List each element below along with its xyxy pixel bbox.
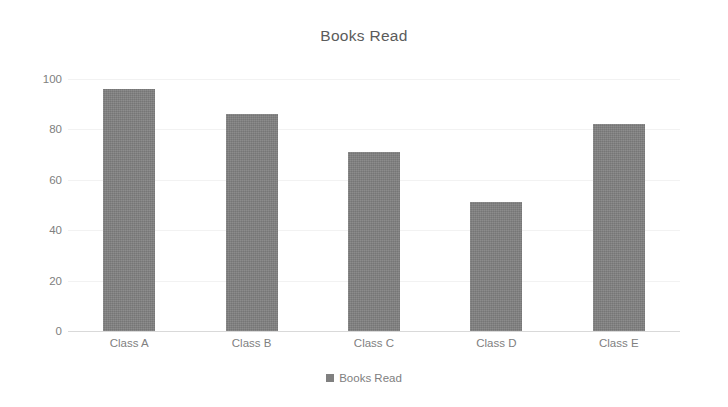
y-axis-tick-label: 80 [22, 123, 62, 135]
bar-slot [313, 79, 435, 331]
chart-legend: Books Read [0, 372, 728, 384]
y-axis-tick-label: 40 [22, 224, 62, 236]
chart-container: Books Read 020406080100 Class AClass BCl… [0, 0, 728, 407]
legend-label: Books Read [339, 372, 402, 384]
bar-slot [435, 79, 557, 331]
y-axis-tick-label: 0 [22, 325, 62, 337]
bar[interactable] [470, 202, 522, 331]
bar[interactable] [348, 152, 400, 331]
bar[interactable] [593, 124, 645, 331]
y-axis-tick-label: 20 [22, 275, 62, 287]
category-axis-line [68, 331, 680, 332]
y-axis-tick-label: 100 [22, 73, 62, 85]
bar-slot [558, 79, 680, 331]
x-axis: Class AClass BClass CClass DClass E [68, 337, 680, 357]
x-axis-tick-label: Class A [68, 337, 190, 349]
x-axis-tick-label: Class B [190, 337, 312, 349]
chart-title: Books Read [0, 27, 728, 45]
legend-marker-icon [326, 374, 334, 382]
bar-slot [68, 79, 190, 331]
bar-slot [190, 79, 312, 331]
x-axis-tick-label: Class D [435, 337, 557, 349]
bar[interactable] [103, 89, 155, 331]
x-axis-tick-label: Class C [313, 337, 435, 349]
x-axis-tick-label: Class E [558, 337, 680, 349]
y-axis-tick-label: 60 [22, 174, 62, 186]
bar[interactable] [226, 114, 278, 331]
plot-area [68, 79, 680, 331]
y-axis: 020406080100 [18, 79, 62, 331]
